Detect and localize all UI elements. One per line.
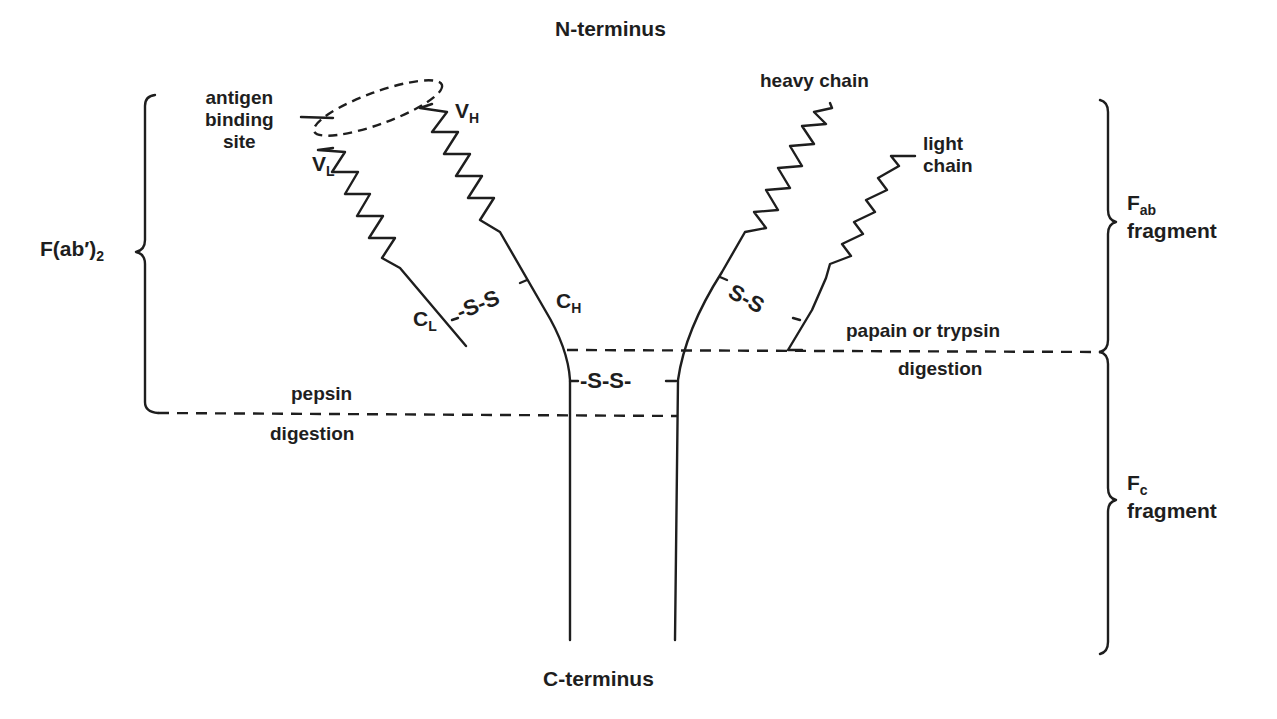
right-ss-tick-heavy xyxy=(720,277,727,280)
vh-label: VH xyxy=(455,100,479,124)
pepsin-cleavage-line xyxy=(158,413,678,416)
pepsin-label: pepsin xyxy=(291,383,352,405)
papain-cleavage-line xyxy=(567,350,1100,352)
n-terminus-label: N-terminus xyxy=(555,18,666,40)
light-line2: chain xyxy=(923,155,973,177)
fab2-brace xyxy=(136,95,158,413)
left-ss-tick-heavy xyxy=(520,280,527,283)
heavy-chain-label: heavy chain xyxy=(760,70,869,92)
fab-brace xyxy=(1100,100,1116,352)
fab-fragment-label: Fab fragment xyxy=(1127,190,1217,244)
ch-label: CH xyxy=(556,290,581,314)
fab2-label: F(ab′)2 xyxy=(40,238,104,262)
cl-label: CL xyxy=(413,308,437,332)
antigen-pointer-line xyxy=(301,117,333,118)
fc-fragment-label: Fc fragment xyxy=(1127,470,1217,524)
papain-label: papain or trypsin xyxy=(846,320,1000,342)
fc-line2: fragment xyxy=(1127,498,1217,524)
left-heavy-chain xyxy=(420,104,570,640)
antigen-line1: antigen xyxy=(205,87,274,109)
antibody-structure-diagram xyxy=(0,0,1277,719)
antigen-line2: binding xyxy=(205,109,274,131)
papain-digestion-label: digestion xyxy=(898,358,982,380)
pepsin-digestion-label: digestion xyxy=(270,423,354,445)
left-light-chain xyxy=(318,148,466,346)
vl-label: VL xyxy=(312,153,335,177)
light-line1: light xyxy=(923,133,973,155)
antigen-binding-site-label: antigen binding site xyxy=(205,87,274,153)
hinge-disulfide-label: -S-S- xyxy=(580,370,631,392)
right-heavy-chain xyxy=(675,103,832,640)
light-chain-label: light chain xyxy=(923,133,973,177)
antigen-line3: site xyxy=(205,131,274,153)
fab-line2: fragment xyxy=(1127,218,1217,244)
right-ss-tick-light xyxy=(793,318,800,320)
fc-brace xyxy=(1100,352,1116,654)
c-terminus-label: C-terminus xyxy=(543,668,654,690)
left-ss-tick-light xyxy=(452,318,458,320)
